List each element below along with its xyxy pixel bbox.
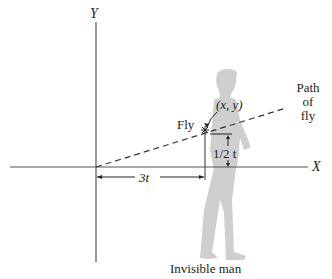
invisible-man-label: Invisible man: [170, 262, 241, 275]
point-label: (x, y): [216, 98, 243, 111]
fly-label: Fly: [177, 118, 194, 131]
diagram-canvas: [0, 0, 332, 279]
path-label-line-1: Path: [288, 81, 328, 95]
y-axis-label: Y: [90, 7, 98, 21]
x-axis-label: X: [312, 160, 321, 174]
path-label-line-2: of: [288, 95, 328, 109]
fly-marker: [201, 126, 209, 134]
horizontal-distance-label: 3t: [139, 171, 149, 184]
path-of-fly-label: Path of fly: [288, 81, 328, 123]
vertical-distance-label: 1/2 t: [213, 147, 236, 160]
path-label-line-3: fly: [288, 109, 328, 123]
